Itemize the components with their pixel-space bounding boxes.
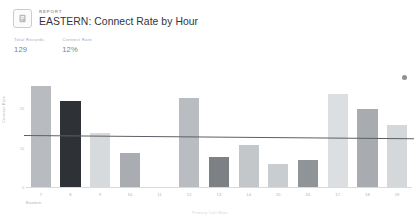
x-axis-group-label: Eastern [26,200,42,205]
x-axis-tick-label: 17 [323,192,353,197]
report-header-text: REPORT EASTERN: Connect Rate by Hour [39,10,198,27]
bar-slot [323,70,353,188]
x-axis-tick-label: 11 [145,192,175,197]
bar[interactable] [31,86,51,188]
x-axis-line [26,187,412,188]
bar-slot [115,70,145,188]
bar[interactable] [120,153,140,188]
plot-area [26,70,412,188]
bar-chart: Connect Rate 20100 789101112131415161718… [0,66,420,224]
x-axis-tick-label: 12 [174,192,204,197]
bar-slot [204,70,234,188]
report-header: REPORT EASTERN: Connect Rate by Hour [0,0,420,28]
bar-slot [85,70,115,188]
bar[interactable] [298,160,318,188]
kpi-label: Total Records [14,38,44,42]
bar-slot [56,70,86,188]
bar-slot [234,70,264,188]
bar-slot [353,70,383,188]
bar-slot [293,70,323,188]
bar[interactable] [60,101,80,188]
bar-slot [264,70,294,188]
bar[interactable] [239,145,259,188]
bar[interactable] [90,133,110,188]
bar[interactable] [268,164,288,188]
x-axis-tick-label: 13 [204,192,234,197]
bar-slot [26,70,56,188]
kpi-row: Total Records 129 Connect Rate 12% [0,28,420,53]
bar[interactable] [387,125,407,188]
kpi-total-records: Total Records 129 [14,38,44,53]
kpi-label: Connect Rate [62,38,92,42]
kpi-value: 12% [62,46,92,54]
y-axis-tick-label: 0 [22,186,24,190]
kpi-value: 129 [14,46,44,54]
x-axis-title: Primary Call Hour [0,210,420,215]
y-axis-title: Connect Rate [2,96,6,123]
bar[interactable] [357,109,377,188]
y-axis-tick-label: 20 [20,107,24,111]
x-axis-tick-label: 7 [26,192,56,197]
x-axis-tick-label: 16 [293,192,323,197]
y-axis-tick-label: 10 [20,147,24,151]
page-title: EASTERN: Connect Rate by Hour [39,17,198,27]
x-axis-tick-label: 18 [353,192,383,197]
bar-slot [382,70,412,188]
report-eyebrow: REPORT [39,10,198,14]
y-axis-ticks: 20100 [14,70,24,188]
x-axis-tick-label: 14 [234,192,264,197]
kpi-connect-rate: Connect Rate 12% [62,38,92,53]
x-axis-tick-label: 15 [264,192,294,197]
bar-slot [145,70,175,188]
x-axis-ticks: 78910111213141516171819 [26,192,412,197]
report-document-icon [13,9,32,28]
x-axis-tick-label: 10 [115,192,145,197]
bar[interactable] [209,157,229,188]
bar-series [26,70,412,188]
bar[interactable] [328,94,348,188]
bar-slot [174,70,204,188]
x-axis-tick-label: 9 [85,192,115,197]
bar[interactable] [179,98,199,188]
x-axis-tick-label: 19 [382,192,412,197]
x-axis-tick-label: 8 [56,192,86,197]
